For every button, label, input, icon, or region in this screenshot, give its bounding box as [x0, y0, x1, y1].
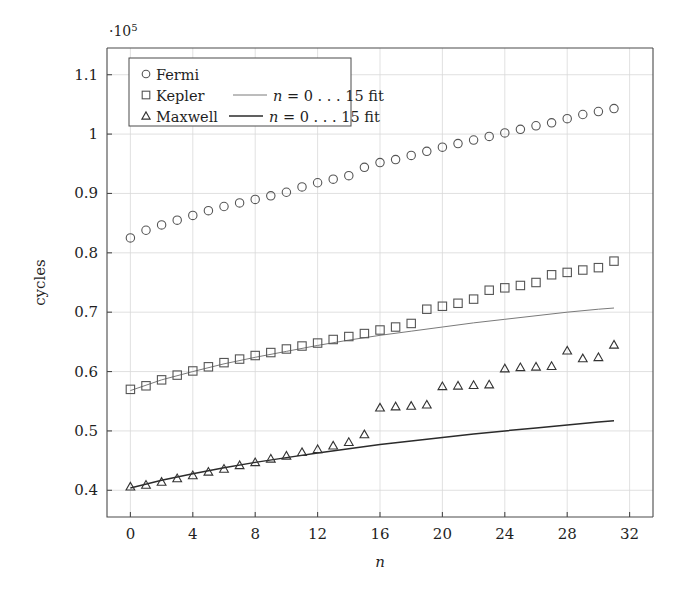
- data-point-circle: [594, 107, 602, 115]
- x-tick-label: 12: [308, 525, 327, 543]
- data-point-triangle: [578, 354, 587, 362]
- legend-label: Kepler: [156, 88, 205, 104]
- series-maxwell: [126, 340, 618, 490]
- data-point-circle: [547, 119, 555, 127]
- data-point-square: [516, 281, 524, 289]
- data-point-triangle: [422, 400, 431, 408]
- x-tick-label: 32: [620, 525, 639, 543]
- data-point-square: [454, 299, 462, 307]
- data-point-circle: [282, 188, 290, 196]
- data-point-circle: [485, 132, 493, 140]
- data-point-square: [610, 257, 618, 265]
- chart-legend: FermiKeplern = 0 . . . 15 fitMaxwelln = …: [129, 58, 384, 126]
- fit-lines: [130, 308, 614, 488]
- y-tick-label: 0.9: [74, 184, 98, 202]
- data-point-square: [407, 319, 415, 327]
- data-point-circle: [345, 171, 353, 179]
- data-point-circle: [407, 151, 415, 159]
- x-tick-label: 24: [495, 525, 514, 543]
- scatter-plot: 0481216202428320.40.50.60.70.80.911.1 ·1…: [0, 0, 684, 593]
- axis-ticks: 0481216202428320.40.50.60.70.80.911.1: [74, 66, 639, 543]
- data-point-square: [547, 271, 555, 279]
- x-tick-label: 20: [433, 525, 452, 543]
- data-point-triangle: [407, 402, 416, 410]
- data-point-circle: [423, 147, 431, 155]
- y-tick-label: 0.6: [74, 363, 98, 381]
- x-tick-label: 0: [126, 525, 136, 543]
- data-point-circle: [142, 226, 150, 234]
- data-point-triangle: [454, 381, 463, 389]
- data-point-circle: [235, 199, 243, 207]
- svg-text:·105: ·105: [109, 22, 138, 40]
- data-point-circle: [454, 139, 462, 147]
- data-point-square: [532, 278, 540, 286]
- data-point-circle: [360, 163, 368, 171]
- y-tick-label: 0.4: [74, 481, 98, 499]
- data-point-square: [220, 358, 228, 366]
- data-point-square: [594, 263, 602, 271]
- data-point-circle: [267, 192, 275, 200]
- y-tick-label: 1.1: [74, 66, 98, 84]
- y-tick-label: 0.7: [74, 303, 98, 321]
- data-point-circle: [220, 202, 228, 210]
- y-tick-label: 0.8: [74, 244, 98, 262]
- data-point-triangle: [594, 353, 603, 361]
- data-point-square: [469, 295, 477, 303]
- x-tick-label: 4: [188, 525, 198, 543]
- legend-label: Fermi: [156, 67, 200, 83]
- y-axis-label: cycles: [31, 259, 49, 306]
- data-point-circle: [516, 125, 524, 133]
- series-kepler: [126, 257, 618, 394]
- data-point-circle: [391, 155, 399, 163]
- data-point-triangle: [547, 362, 556, 370]
- data-point-square: [267, 348, 275, 356]
- legend-fit-label: n = 0 . . . 15 fit: [273, 88, 384, 104]
- data-point-square: [579, 266, 587, 274]
- data-point-circle: [204, 206, 212, 214]
- x-tick-label: 16: [370, 525, 389, 543]
- fit-line: [130, 308, 614, 391]
- data-point-triangle: [485, 380, 494, 388]
- y-tick-label: 0.5: [74, 422, 98, 440]
- x-tick-label: 28: [558, 525, 577, 543]
- data-point-triangle: [344, 438, 353, 446]
- data-point-circle: [329, 175, 337, 183]
- data-point-triangle: [532, 362, 541, 370]
- data-point-triangle: [516, 363, 525, 371]
- data-point-square: [391, 323, 399, 331]
- data-point-square: [360, 329, 368, 337]
- legend-fit-label: n = 0 . . . 15 fit: [269, 109, 380, 125]
- data-point-circle: [298, 183, 306, 191]
- x-axis-label: n: [375, 553, 385, 571]
- data-point-triangle: [329, 441, 338, 449]
- legend-label: Maxwell: [156, 109, 218, 125]
- data-point-circle: [532, 122, 540, 130]
- y-tick-label: 1: [88, 125, 98, 143]
- data-point-circle: [157, 221, 165, 229]
- y-axis-multiplier: ·105: [109, 22, 138, 40]
- data-point-square: [235, 355, 243, 363]
- data-point-triangle: [391, 402, 400, 410]
- data-point-triangle: [469, 381, 478, 389]
- data-point-circle: [469, 136, 477, 144]
- data-point-circle: [173, 216, 181, 224]
- data-point-square: [485, 286, 493, 294]
- data-points: [126, 104, 618, 490]
- x-tick-label: 8: [250, 525, 260, 543]
- data-point-triangle: [610, 340, 619, 348]
- chart-figure: 0481216202428320.40.50.60.70.80.911.1 ·1…: [0, 0, 684, 593]
- data-point-circle: [579, 110, 587, 118]
- data-point-circle: [610, 104, 618, 112]
